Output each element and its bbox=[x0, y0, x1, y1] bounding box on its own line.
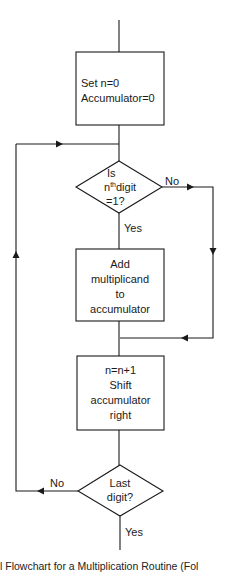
decision-last-text: Last digit? bbox=[90, 476, 150, 504]
shift-line-1: n=n+1 bbox=[77, 363, 164, 378]
figure-caption: l Flowchart for a Multiplication Routine… bbox=[0, 560, 240, 572]
add-line-1: Add bbox=[76, 257, 164, 272]
decision-digit-line-1: Is bbox=[107, 166, 116, 180]
decision-digit-line-2: nthdigit bbox=[104, 180, 136, 194]
add-line-2: multiplicand bbox=[76, 272, 164, 287]
decision-last-line-2: digit? bbox=[90, 490, 150, 504]
arrow-right-icon bbox=[56, 141, 63, 148]
arrow-right-icon bbox=[187, 184, 194, 191]
yes-label-2: Yes bbox=[125, 525, 143, 539]
arrow-left-icon bbox=[37, 488, 44, 495]
yes-label-1: Yes bbox=[124, 221, 142, 235]
decision-last-line-1: Last bbox=[90, 476, 150, 490]
add-box-text: Add multiplicand to accumulator bbox=[76, 257, 164, 317]
arrow-down-icon bbox=[210, 248, 217, 255]
shift-line-2: Shift bbox=[77, 378, 164, 393]
shift-line-4: right bbox=[77, 408, 164, 423]
add-line-3: to bbox=[76, 287, 164, 302]
decision-digit-line-3: =1? bbox=[106, 194, 125, 208]
init-line-2: Accumulator=0 bbox=[81, 91, 155, 106]
digit-text: digit bbox=[116, 181, 136, 193]
no-label-2: No bbox=[50, 476, 64, 490]
arrow-left-icon bbox=[181, 335, 188, 342]
no-label-1: No bbox=[165, 174, 179, 188]
init-line-1: Set n=0 bbox=[81, 76, 155, 91]
add-line-4: accumulator bbox=[76, 302, 164, 317]
loop-return-connector bbox=[16, 144, 78, 491]
shift-line-3: accumulator bbox=[77, 393, 164, 408]
shift-box-text: n=n+1 Shift accumulator right bbox=[77, 363, 164, 423]
init-box-text: Set n=0 Accumulator=0 bbox=[81, 76, 155, 106]
arrow-up-icon bbox=[13, 251, 20, 258]
